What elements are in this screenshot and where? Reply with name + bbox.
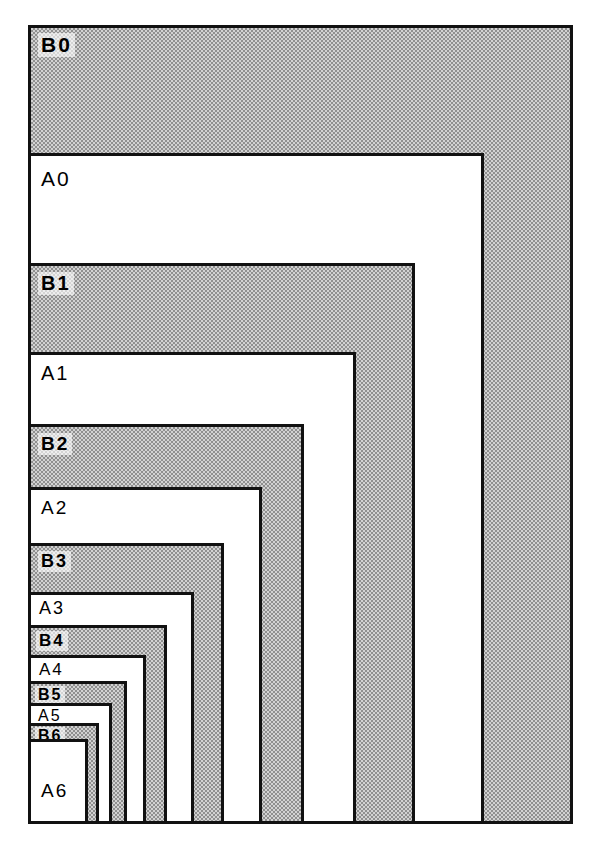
sheet-label-b3: B3 (38, 551, 71, 572)
sheet-label-b0: B0 (38, 33, 75, 57)
sheet-label-b4: B4 (36, 631, 68, 651)
sheet-label-a3: A3 (36, 598, 68, 619)
cropped-title-strip (0, 0, 602, 12)
sheet-label-a4: A4 (36, 660, 67, 680)
sheet-label-a2: A2 (38, 497, 71, 519)
sheet-label-b1: B1 (38, 272, 74, 295)
figure-canvas: B0A0B1A1B2A2B3A3B4A4B5A5B6A6 (0, 0, 602, 841)
sheet-label-a0: A0 (38, 167, 74, 191)
sheet-label-b2: B2 (38, 433, 72, 455)
sheet-label-a6: A6 (38, 780, 71, 802)
sheet-label-a1: A1 (38, 362, 72, 385)
